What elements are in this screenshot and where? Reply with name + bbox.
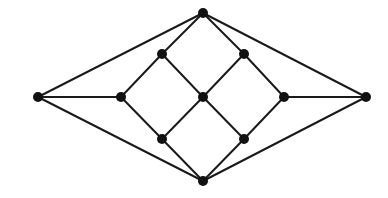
edge-lower-left-bottom [162,139,203,181]
graph-diagram [0,0,388,198]
edge-upper-right-center [203,54,244,97]
edge-left-inner-upper-left [121,54,162,97]
node-lower-left [157,134,167,144]
node-lower-right [239,134,249,144]
node-left-inner [116,92,126,102]
node-top [198,8,208,18]
edge-right-inner-lower-right [244,97,284,139]
edge-top-upper-right [203,13,244,54]
edge-top-upper-left [162,13,203,54]
node-upper-left [157,49,167,59]
node-upper-right [239,49,249,59]
edge-center-lower-left [162,97,203,139]
node-right-inner [279,92,289,102]
edge-left-bottom [38,97,203,181]
edge-top-left [38,13,203,97]
edge-center-lower-right [203,97,244,139]
edge-top-right [203,13,366,97]
node-left [33,92,43,102]
node-bottom [198,176,208,186]
node-right [361,92,371,102]
edge-left-inner-lower-left [121,97,162,139]
edge-lower-right-bottom [203,139,244,181]
edge-upper-left-center [162,54,203,97]
node-center [198,92,208,102]
edge-right-bottom [203,97,366,181]
edge-upper-right-right-inner [244,54,284,97]
